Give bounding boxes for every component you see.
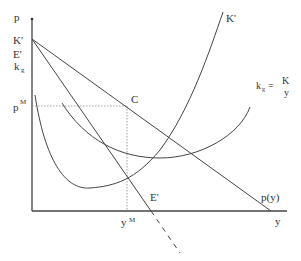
- k-prime-intercept-label: K': [13, 34, 23, 46]
- kg-intercept-sub: g: [21, 66, 25, 74]
- kg-curve-label: k: [256, 80, 261, 91]
- ym-label: y: [121, 216, 127, 228]
- y-axis-tip: [31, 18, 34, 21]
- k-prime-curve-label: K': [226, 12, 236, 24]
- kg-intercept-label: k: [14, 60, 20, 72]
- kg-curve-sub: g: [262, 86, 265, 92]
- kg-denominator: y: [284, 87, 289, 98]
- e-prime-dashed-extension: [151, 211, 180, 253]
- point-c-label: C: [131, 93, 138, 105]
- demand-curve-label: p(y): [261, 191, 280, 204]
- e-prime-curve-label: E': [150, 191, 159, 203]
- e-prime-line: [32, 39, 151, 211]
- k-prime-curve: [35, 12, 223, 188]
- e-prime-intercept-label: E': [13, 48, 22, 60]
- kg-curve: [62, 103, 250, 158]
- y-axis-label: p: [14, 11, 20, 23]
- pm-label-sup: M: [20, 98, 27, 106]
- economics-diagram: p K' E' k g p M C y M y K' E' p(y) k g =…: [0, 0, 301, 261]
- x-axis-label: y: [275, 215, 281, 227]
- pm-label: p: [13, 101, 19, 113]
- kg-equals: =: [268, 80, 274, 91]
- kg-numerator: K: [282, 75, 290, 86]
- ym-label-sup: M: [129, 216, 136, 224]
- demand-line: [32, 39, 271, 211]
